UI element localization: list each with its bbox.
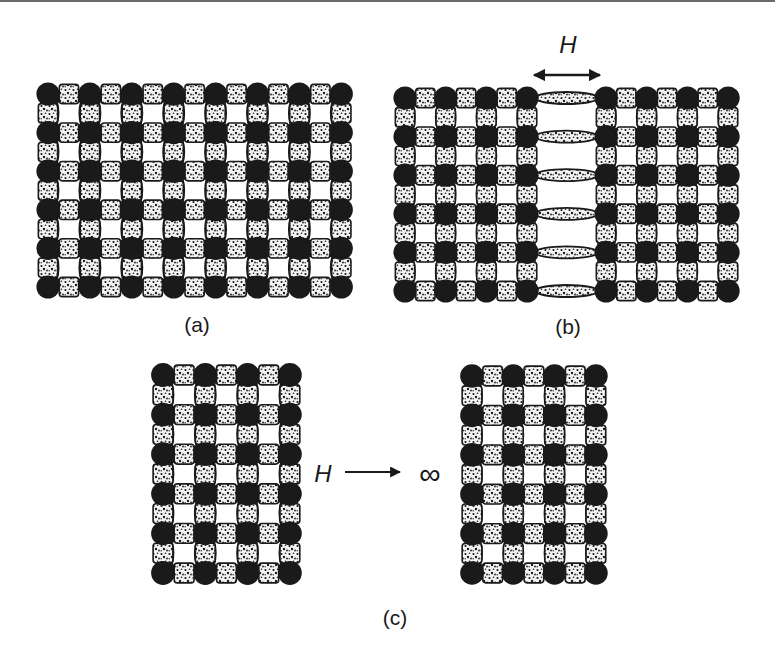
plaquette-square xyxy=(183,140,207,164)
site-circle xyxy=(330,121,353,144)
site-circle xyxy=(460,364,484,388)
plaquette-square xyxy=(141,217,165,241)
bond-square xyxy=(290,258,309,277)
bond-square xyxy=(311,162,330,181)
plaquette-square xyxy=(308,140,332,164)
site-circle xyxy=(120,160,143,183)
bond-square xyxy=(497,243,516,262)
bond-square xyxy=(718,146,737,165)
plaquette-square xyxy=(308,256,332,280)
bond-square xyxy=(524,445,544,465)
bond-square xyxy=(143,200,162,219)
site-circle xyxy=(434,241,457,264)
bond-square xyxy=(185,200,204,219)
bond-square xyxy=(698,204,717,223)
bond-square xyxy=(395,223,414,242)
bond-square xyxy=(153,504,173,524)
plaquette-square xyxy=(99,140,123,164)
plaquette-square xyxy=(614,105,638,129)
bond-square xyxy=(477,223,496,242)
bond-square xyxy=(59,123,78,142)
bond-square xyxy=(436,223,455,242)
bond-square xyxy=(185,123,204,142)
bond-square xyxy=(174,405,194,425)
site-circle xyxy=(204,198,227,221)
site-circle xyxy=(204,237,227,260)
bond-square xyxy=(517,262,536,281)
bond-square xyxy=(280,464,300,484)
plaquette-square xyxy=(413,260,437,284)
site-circle xyxy=(516,125,539,148)
site-circle xyxy=(460,443,484,467)
plaquette-square xyxy=(480,462,504,486)
bond-square xyxy=(698,243,717,262)
bond-square xyxy=(143,123,162,142)
bond-square xyxy=(227,123,246,142)
bond-square xyxy=(545,465,565,485)
infinity-symbol: ∞ xyxy=(419,457,440,491)
site-circle xyxy=(120,275,143,298)
plaquette-square xyxy=(308,217,332,241)
bond-square xyxy=(545,504,565,524)
bond-square xyxy=(483,484,503,504)
plaquette-square xyxy=(522,502,546,526)
bond-square xyxy=(164,258,183,277)
bond-square xyxy=(596,146,615,165)
panel-c-separated-lattices xyxy=(151,363,608,585)
bond-square xyxy=(280,543,300,563)
stretched-bond-ellipse xyxy=(535,92,598,104)
plaquette-square xyxy=(495,183,519,207)
bond-square xyxy=(101,123,120,142)
plaquette-square xyxy=(266,217,290,241)
bond-square xyxy=(227,277,246,296)
plaquette-square xyxy=(99,179,123,203)
site-circle xyxy=(516,279,539,302)
bond-square xyxy=(477,146,496,165)
bond-square xyxy=(657,166,676,185)
site-circle xyxy=(393,279,416,302)
bond-square xyxy=(227,162,246,181)
site-circle xyxy=(475,164,498,187)
bond-square xyxy=(269,84,288,103)
bond-square xyxy=(38,104,57,123)
bond-square xyxy=(503,504,523,524)
bond-square xyxy=(185,84,204,103)
bond-square xyxy=(483,366,503,386)
site-circle xyxy=(162,121,185,144)
bond-square xyxy=(436,108,455,127)
site-circle xyxy=(717,164,740,187)
bond-square xyxy=(524,484,544,504)
bond-square xyxy=(174,524,194,544)
site-circle xyxy=(162,237,185,260)
plaquette-square xyxy=(495,144,519,168)
site-circle xyxy=(204,121,227,144)
bond-square xyxy=(395,146,414,165)
bond-square xyxy=(497,166,516,185)
bond-square xyxy=(164,142,183,161)
site-circle xyxy=(236,561,260,585)
site-circle xyxy=(288,121,311,144)
bond-square xyxy=(259,444,279,464)
site-circle xyxy=(543,364,567,388)
plaquette-square xyxy=(172,462,197,487)
bond-square xyxy=(617,204,636,223)
site-circle xyxy=(635,279,658,302)
site-circle xyxy=(676,125,699,148)
site-circle xyxy=(584,561,608,585)
bond-square xyxy=(517,108,536,127)
plaquette-square xyxy=(522,383,546,407)
bond-square xyxy=(416,243,435,262)
plaquette-square xyxy=(495,221,519,245)
bond-square xyxy=(617,281,636,300)
site-circle xyxy=(36,82,59,105)
site-circle xyxy=(120,121,143,144)
bond-square xyxy=(586,504,606,524)
plaquette-square xyxy=(99,256,123,280)
plaquette-square xyxy=(563,502,587,526)
bond-square xyxy=(436,185,455,204)
plaquette-square xyxy=(696,221,720,245)
site-circle xyxy=(393,86,416,109)
plaquette-square xyxy=(172,383,197,408)
bond-square xyxy=(311,123,330,142)
bond-square xyxy=(524,366,544,386)
